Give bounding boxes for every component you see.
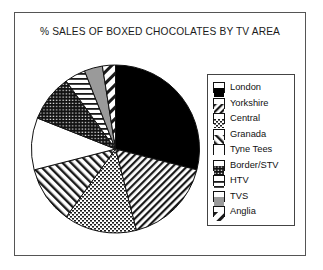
legend-label: Border/STV	[230, 160, 279, 171]
legend-label: HTV	[230, 175, 249, 186]
legend-swatch-solid-black-icon	[213, 82, 225, 93]
legend-swatch-plain-white-icon	[213, 144, 225, 155]
legend-swatch-diagonal-stripes-icon	[213, 129, 225, 140]
legend-item-anglia[interactable]: Anglia	[213, 204, 290, 220]
legend-label: Granada	[230, 129, 266, 140]
legend-swatch-solid-gray-icon	[213, 191, 225, 202]
legend-label: Yorkshire	[230, 98, 268, 109]
legend-label: Central	[230, 113, 260, 124]
legend-swatch-wide-diagonal-icon	[213, 206, 225, 217]
legend-item-london[interactable]: London	[213, 80, 290, 96]
legend-item-central[interactable]: Central	[213, 111, 290, 127]
figure-canvas: % SALES OF BOXED CHOCOLATES BY TV AREA	[0, 0, 323, 270]
chart-legend: LondonYorkshireCentralGranadaTyne TeesBo…	[207, 74, 295, 226]
legend-swatch-horizontal-lines-icon	[213, 175, 225, 186]
legend-label: Anglia	[230, 206, 256, 217]
legend-swatch-dense-dots-icon	[213, 160, 225, 171]
pie-chart-svg	[14, 48, 210, 248]
legend-item-tyne-tees[interactable]: Tyne Tees	[213, 142, 290, 158]
legend-label: Tyne Tees	[230, 144, 272, 155]
legend-item-htv[interactable]: HTV	[213, 173, 290, 189]
legend-swatch-diagonal-hatch-icon	[213, 98, 225, 109]
chart-title: % SALES OF BOXED CHOCOLATES BY TV AREA	[14, 26, 306, 37]
pie-slice-group	[32, 65, 200, 233]
legend-label: London	[230, 82, 261, 93]
legend-swatch-fine-dots-icon	[213, 113, 225, 124]
legend-item-granada[interactable]: Granada	[213, 127, 290, 143]
legend-item-yorkshire[interactable]: Yorkshire	[213, 96, 290, 112]
legend-item-border-stv[interactable]: Border/STV	[213, 158, 290, 174]
legend-item-tvs[interactable]: TVS	[213, 189, 290, 205]
legend-label: TVS	[230, 191, 248, 202]
pie-chart-area	[14, 48, 210, 248]
